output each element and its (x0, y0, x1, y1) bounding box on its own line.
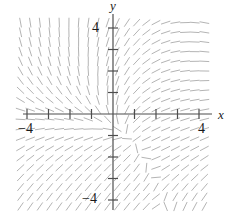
slope-segment (115, 48, 119, 56)
slope-segment (134, 193, 140, 200)
slope-segment (115, 193, 121, 200)
slope-segment (122, 138, 131, 139)
slope-segment (49, 38, 51, 47)
slope-segment (114, 155, 121, 161)
slope-segment (74, 137, 82, 140)
slope-segment (45, 137, 53, 140)
slope-segment (98, 67, 99, 76)
slope-segment (45, 128, 54, 129)
slope-segment (125, 115, 129, 123)
slope-segment (200, 99, 209, 100)
slope-segment (142, 147, 150, 150)
slope-segment (29, 38, 31, 47)
slope-segment (133, 136, 140, 141)
slope-segment (39, 47, 41, 56)
slope-segment (134, 19, 140, 26)
slope-segment (95, 174, 101, 181)
slope-segment (35, 119, 44, 120)
slope-segment (39, 18, 40, 27)
slope-segment (116, 57, 120, 65)
slope-segment (171, 118, 179, 121)
slope-segment (190, 80, 199, 81)
slope-segment (152, 50, 160, 54)
slope-segment (114, 146, 121, 151)
slope-segment (134, 174, 140, 181)
slope-segment (171, 41, 180, 43)
slope-segment (116, 76, 119, 84)
slope-segment (37, 165, 44, 171)
slope-segment (125, 77, 130, 85)
slope-segment (107, 96, 108, 105)
slope-segment (97, 38, 99, 47)
slope-segment (181, 61, 190, 62)
slope-segment (172, 165, 179, 170)
slope-segment (124, 203, 130, 210)
slope-segment (57, 193, 62, 200)
slope-segment (134, 154, 139, 162)
slope-segment (134, 77, 140, 84)
slope-segment (29, 28, 31, 37)
slope-segment (65, 137, 73, 140)
slope-segment (164, 202, 167, 210)
slope-segment (106, 38, 109, 47)
slope-segment (181, 165, 188, 170)
slope-segment (57, 203, 62, 210)
slope-segment (76, 184, 82, 191)
slope-segment (16, 108, 25, 111)
slope-segment (94, 137, 103, 140)
slope-segment (16, 119, 25, 120)
slope-segment (26, 146, 34, 151)
slope-segment (18, 77, 23, 84)
y-tick-label-minus4: −4 (82, 192, 97, 206)
slope-segment (192, 184, 198, 191)
slope-segment (125, 87, 130, 95)
slope-segment (181, 42, 190, 43)
slope-segment (134, 58, 140, 65)
slope-segment (191, 137, 199, 141)
slope-segment (193, 202, 197, 210)
slope-segment (65, 146, 73, 151)
slope-segment (55, 137, 63, 140)
slope-segment (162, 156, 170, 160)
slope-segment (48, 67, 51, 75)
slope-segment (37, 184, 43, 191)
slope-segment (152, 166, 160, 169)
slope-segment (161, 31, 170, 34)
slope-segment (152, 79, 160, 83)
slope-segment (27, 165, 34, 171)
slope-segment (19, 38, 21, 47)
slope-segment (56, 97, 63, 103)
slope-segment (49, 18, 50, 27)
slope-segment (69, 37, 70, 46)
slope-segment (85, 107, 92, 113)
slope-segment (106, 18, 109, 27)
slope-segment (171, 51, 180, 53)
slope-segment (49, 47, 51, 56)
slope-segment (47, 193, 52, 200)
slope-segment (143, 107, 150, 112)
slope-segment (30, 18, 31, 27)
slope-segment (37, 77, 42, 85)
slope-segment (85, 184, 91, 191)
slope-segment (17, 98, 25, 103)
slope-segment (84, 146, 92, 151)
slope-segment (105, 193, 111, 200)
slope-segment (107, 86, 108, 95)
slope-segment (116, 96, 118, 105)
slope-segment (36, 108, 44, 111)
slope-segment (86, 96, 90, 104)
slope-segment (68, 47, 69, 56)
slope-segment (154, 183, 159, 191)
slope-segment (143, 97, 150, 102)
slope-segment (200, 109, 209, 111)
slope-field-figure: y x −4 4 4 −4 (0, 0, 237, 217)
slope-segment (46, 146, 54, 151)
slope-segment (152, 137, 160, 141)
slope-segment (66, 174, 72, 181)
slope-segment (134, 164, 139, 171)
slope-segment (181, 137, 189, 141)
slope-segment (181, 80, 190, 81)
slope-segment (124, 174, 130, 181)
slope-segment (125, 96, 129, 104)
slope-segment (181, 109, 190, 111)
